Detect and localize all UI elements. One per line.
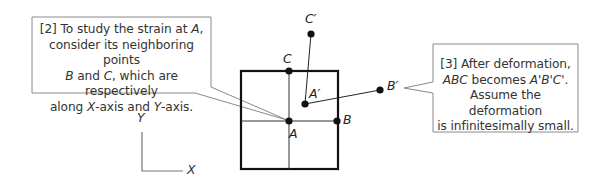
point-B-prime xyxy=(376,86,383,93)
label-C-prime: C′ xyxy=(305,13,317,26)
xy-axes-icon xyxy=(142,132,183,171)
callout-2-text: [2] To study the strain at A, consider i… xyxy=(32,22,211,115)
point-A xyxy=(285,117,292,124)
callout-3-line-2: ABC becomes A'B'C'. xyxy=(433,73,578,89)
callout-2-line-1: [2] To study the strain at A, xyxy=(32,22,211,38)
label-A-prime: A′ xyxy=(309,88,320,101)
callout-3-line-4: is infinitesimally small. xyxy=(433,119,578,135)
label-A: A xyxy=(289,128,298,141)
label-B-prime: B′ xyxy=(387,80,398,93)
callout-3-line-3: Assume the deformation xyxy=(433,88,578,119)
callout-2-line-4: along X-axis and Y-axis. xyxy=(32,100,211,116)
label-B: B xyxy=(343,114,352,127)
point-C xyxy=(285,67,292,74)
callout-3-line-1: [3] After deformation, xyxy=(433,57,578,73)
axis-label-x: X xyxy=(187,164,196,177)
callout-3-text: [3] After deformation, ABC becomes A'B'C… xyxy=(433,57,578,135)
callout-2-line-2: consider its neighboring points xyxy=(32,38,211,69)
point-A-prime xyxy=(301,100,308,107)
axis-label-y: Y xyxy=(137,112,145,125)
point-B xyxy=(333,117,340,124)
label-C: C xyxy=(283,53,292,66)
point-C-prime xyxy=(307,30,314,37)
callout-2-line-3: B and C, which are respectively xyxy=(32,69,211,100)
